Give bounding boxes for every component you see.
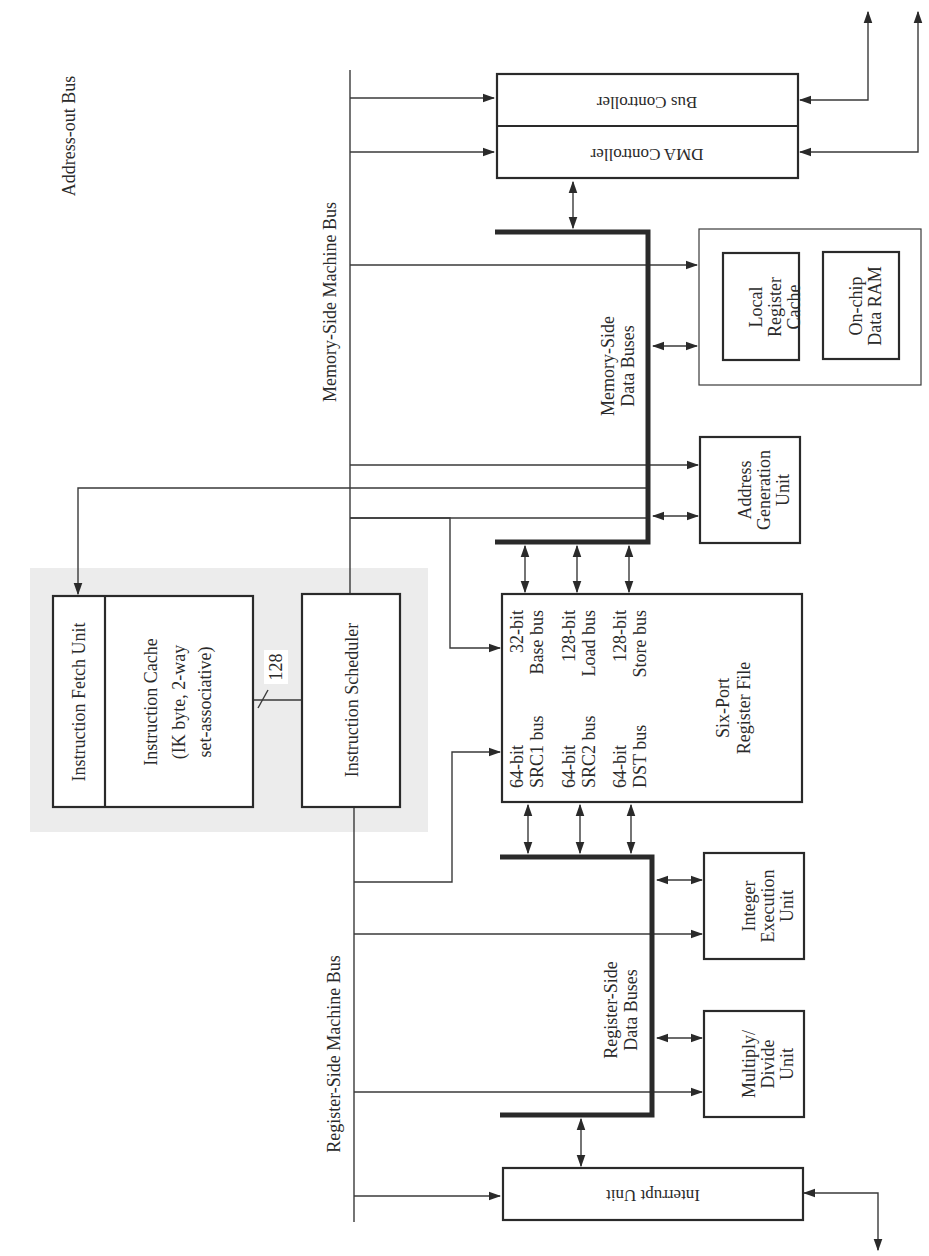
dma-controller-label: DMA Controller [590, 145, 703, 164]
local-register-cache-label-1: Local [746, 287, 766, 328]
mdu-label-1: Multiply/ [739, 1030, 759, 1098]
bus-width-label: 128 [266, 654, 286, 681]
instruction-scheduler-label: Instruction Scheduler [342, 623, 362, 777]
register-file-title-2: Register File [734, 662, 754, 755]
interrupt-unit-label: Interrupt Unit [606, 1186, 700, 1205]
instruction-cache-label-1: Instruction Cache [141, 638, 161, 765]
ieu-label-1: Integer [739, 881, 759, 932]
agu-label-1: Address [735, 461, 755, 520]
on-chip-data-ram-label-1: On-chip [846, 277, 866, 336]
ieu-label-3: Unit [777, 890, 797, 922]
memory-side-machine-bus-label: Memory-Side Machine Bus [320, 202, 340, 402]
bus-controller-external-arrow [800, 12, 868, 100]
src1-name-label: SRC1 bus [527, 715, 547, 788]
memory-side-data-buses-label-1: Memory-Side [598, 316, 618, 416]
load-width-label: 128-bit [559, 610, 579, 662]
load-name-label: Load bus [579, 610, 599, 677]
register-side-data-buses-label-1: Register-Side [601, 961, 621, 1059]
base-name-label: Base bus [527, 610, 547, 675]
bus-controller-label: Bus Controller [596, 93, 697, 112]
instruction-fetch-unit-label: Instruction Fetch Unit [69, 623, 89, 782]
dst-width-label: 64-bit [610, 745, 630, 788]
src2-width-label: 64-bit [559, 745, 579, 788]
dma-controller-external-arrow [800, 12, 918, 152]
base-width-label: 32-bit [507, 610, 527, 653]
six-port-register-file-block [502, 594, 802, 802]
src1-width-label: 64-bit [507, 745, 527, 788]
block-diagram: Bus Controller DMA Controller Interrupt … [0, 0, 929, 1256]
on-chip-data-ram-label-2: Data RAM [865, 266, 885, 346]
src2-name-label: SRC2 bus [579, 715, 599, 788]
agu-label-3: Unit [773, 474, 793, 506]
interrupt-external-arrow [804, 1193, 878, 1250]
register-side-data-buses-label-2: Data Buses [621, 969, 641, 1050]
register-file-title-1: Six-Port [713, 678, 733, 738]
store-width-label: 128-bit [610, 610, 630, 662]
memory-side-data-buses-label-2: Data Buses [618, 325, 638, 406]
local-register-cache-label-2: Register [765, 277, 785, 337]
agu-label-2: Generation [754, 450, 774, 530]
mdu-label-2: Divide [758, 1039, 778, 1088]
store-name-label: Store bus [630, 610, 650, 678]
local-register-cache-label-3: Cache [784, 285, 804, 330]
mdu-label-3: Unit [777, 1048, 797, 1080]
ieu-label-2: Execution [758, 870, 778, 943]
instruction-cache-label-3: set-associative) [195, 647, 216, 758]
address-out-bus-label: Address-out Bus [59, 76, 79, 197]
instruction-cache-label-2: (IK byte, 2-way [169, 645, 190, 759]
register-side-machine-bus-label: Register-Side Machine Bus [324, 955, 344, 1153]
dst-name-label: DST bus [630, 725, 650, 788]
